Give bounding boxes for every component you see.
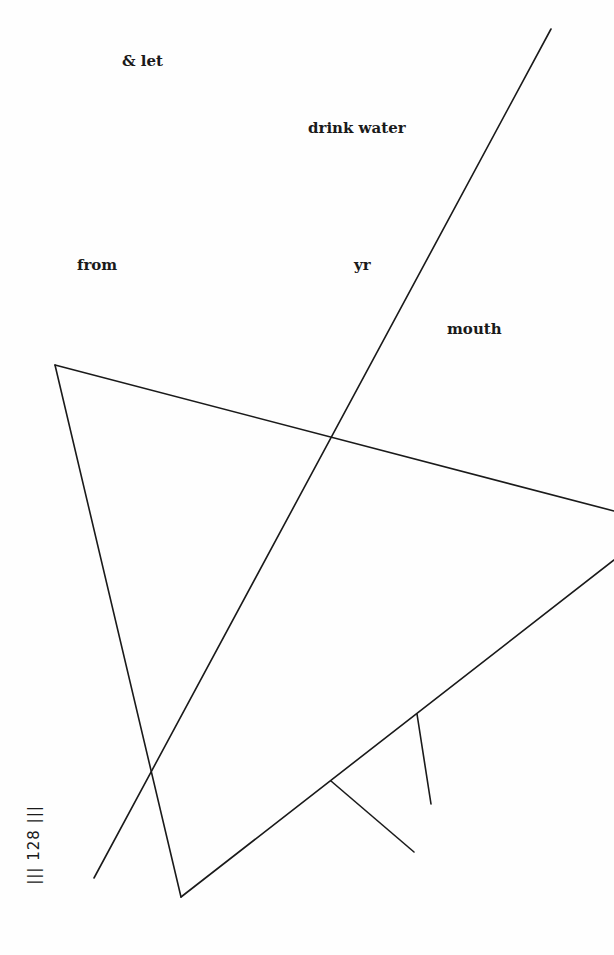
left-edge-line <box>55 365 181 897</box>
branch-left-line <box>331 781 414 852</box>
line-drawing <box>0 0 614 955</box>
poem-word-drink-water: drink water <box>308 121 406 136</box>
long-diagonal-line <box>94 29 551 878</box>
poem-word-from: from <box>77 258 117 273</box>
poem-word-and-let: & let <box>122 54 163 69</box>
poem-word-mouth: mouth <box>447 322 502 337</box>
poem-word-yr: yr <box>354 258 371 273</box>
branch-right-line <box>417 714 431 804</box>
poem-page: & let drink water from yr mouth ||| 128 … <box>0 0 614 955</box>
upper-edge-line <box>55 365 614 511</box>
page-number: ||| 128 ||| <box>25 805 43 885</box>
lower-edge-line <box>181 560 614 897</box>
